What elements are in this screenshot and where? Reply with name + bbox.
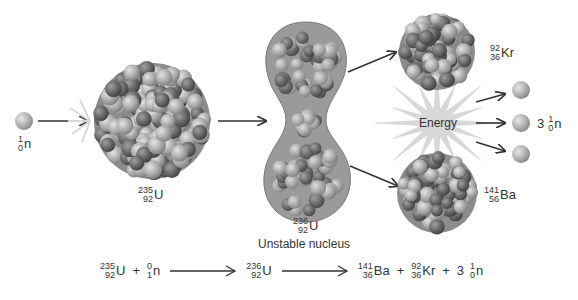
eq-reactant-u235: 23592 U bbox=[100, 262, 125, 279]
incoming-neutron bbox=[15, 112, 33, 130]
eq-arrow-1 bbox=[168, 265, 238, 277]
released-neutron-3 bbox=[512, 145, 530, 163]
arrow-neutron-3 bbox=[476, 142, 505, 151]
nucleon bbox=[441, 197, 453, 209]
nucleon bbox=[419, 30, 434, 45]
nucleon bbox=[430, 13, 442, 25]
nucleon bbox=[322, 58, 335, 71]
nucleon bbox=[93, 106, 108, 121]
nucleon bbox=[422, 76, 437, 91]
nucleon bbox=[288, 195, 301, 208]
nucleon bbox=[406, 65, 421, 80]
nucleon bbox=[453, 166, 465, 178]
released-neutrons-label: 3 10 n bbox=[537, 115, 561, 132]
eq-product-neutrons: 10 n bbox=[470, 262, 483, 279]
nucleon bbox=[155, 125, 172, 142]
nucleon bbox=[275, 74, 288, 87]
nucleon bbox=[310, 180, 326, 196]
barium-nucleus bbox=[397, 151, 478, 234]
energy-label: Energy bbox=[419, 116, 457, 130]
nucleon bbox=[285, 162, 300, 177]
released-neutron-2 bbox=[512, 114, 530, 132]
nucleon bbox=[458, 54, 471, 67]
nucleon bbox=[442, 24, 458, 40]
u235-nucleus bbox=[93, 61, 211, 180]
nucleon bbox=[432, 43, 447, 58]
nucleon bbox=[299, 85, 311, 97]
nucleon bbox=[457, 179, 470, 192]
barium-label: 14156 Ba bbox=[484, 186, 516, 203]
nucleon bbox=[454, 200, 468, 214]
nucleon bbox=[155, 93, 170, 108]
nucleon bbox=[144, 161, 162, 179]
nucleon bbox=[171, 145, 188, 162]
nucleon bbox=[310, 84, 323, 97]
nucleon bbox=[299, 171, 313, 185]
nucleon bbox=[313, 71, 328, 86]
eq-product-barium: 14136 Ba bbox=[358, 262, 390, 279]
eq-plus: + bbox=[397, 263, 405, 278]
fission-equation: 23592 U + 01 n 23692 U 14136 Ba + 9236 K… bbox=[100, 262, 483, 279]
nucleon bbox=[105, 80, 122, 97]
nucleon bbox=[412, 159, 427, 174]
arrow-neutron-1 bbox=[476, 94, 505, 102]
nucleon bbox=[291, 58, 303, 70]
krypton-label: 9236 Kr bbox=[490, 44, 514, 61]
nucleon bbox=[168, 98, 184, 114]
nucleon bbox=[323, 149, 338, 164]
nucleon bbox=[432, 151, 445, 164]
nucleon bbox=[181, 77, 195, 91]
eq-plus: + bbox=[132, 263, 140, 278]
nucleon bbox=[296, 32, 308, 44]
eq-reactant-neutron: 01 n bbox=[147, 262, 160, 279]
nucleon bbox=[273, 43, 287, 57]
nucleon bbox=[142, 72, 157, 87]
arrow-to-barium bbox=[350, 166, 398, 186]
nucleon bbox=[439, 72, 454, 87]
nucleon bbox=[293, 70, 306, 83]
krypton-nucleus bbox=[398, 13, 475, 91]
u235-label: 23592 U bbox=[138, 186, 163, 203]
nucleon bbox=[308, 155, 322, 169]
eq-product-krypton: 9236 Kr bbox=[411, 262, 435, 279]
nucleon bbox=[122, 95, 139, 112]
nucleon bbox=[117, 118, 134, 135]
nucleon bbox=[405, 189, 417, 201]
incoming-neutron-label: 10 n bbox=[18, 135, 31, 152]
eq-plus: + bbox=[442, 263, 450, 278]
arrow-to-krypton bbox=[348, 52, 396, 72]
impact-rays bbox=[68, 100, 90, 142]
nucleon bbox=[275, 58, 289, 72]
nucleon bbox=[313, 43, 326, 56]
eq-intermediate-u236: 23692 U bbox=[246, 262, 271, 279]
u236-label: 23692 U bbox=[293, 217, 318, 234]
nucleon bbox=[187, 94, 203, 110]
nucleon bbox=[124, 64, 140, 80]
nucleon bbox=[298, 123, 312, 137]
eq-arrow-2 bbox=[280, 265, 350, 277]
nucleon bbox=[136, 111, 152, 127]
nucleon bbox=[429, 219, 444, 234]
unstable-nucleus-caption: Unstable nucleus bbox=[258, 237, 350, 251]
nucleon bbox=[129, 155, 144, 170]
nucleon bbox=[101, 138, 116, 153]
nucleon bbox=[309, 142, 321, 154]
nucleon bbox=[431, 204, 443, 216]
nucleon bbox=[192, 125, 207, 140]
nucleon bbox=[156, 69, 173, 86]
nucleon bbox=[425, 58, 440, 73]
eq-neutron-count: 3 bbox=[457, 263, 464, 278]
released-neutron-1 bbox=[512, 81, 530, 99]
